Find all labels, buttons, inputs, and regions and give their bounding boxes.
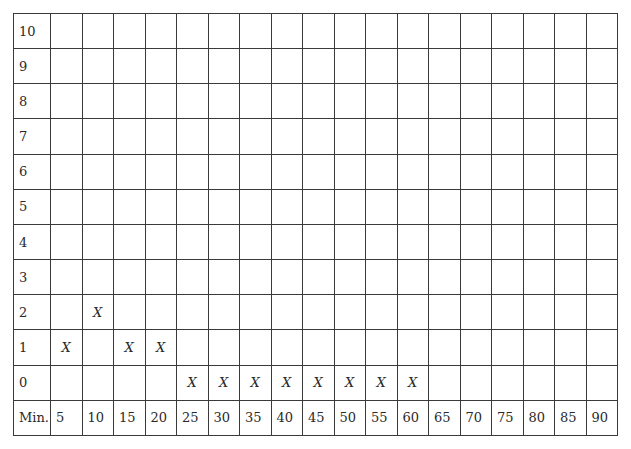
grid-cell	[82, 260, 114, 295]
grid-cell	[240, 330, 272, 365]
grid-cell	[460, 154, 492, 189]
grid-cell	[429, 330, 461, 365]
grid-cell	[114, 260, 146, 295]
grid-row-7: 7	[14, 119, 618, 154]
x-tick-label: 20	[145, 400, 177, 435]
grid-cell	[523, 84, 555, 119]
y-tick-label: 6	[14, 154, 51, 189]
grid-cell	[145, 260, 177, 295]
grid-cell	[492, 49, 524, 84]
grid-cell	[586, 49, 618, 84]
x-tick-label: 25	[177, 400, 209, 435]
grid-cell	[492, 84, 524, 119]
x-tick-label: 50	[334, 400, 366, 435]
data-mark: X	[114, 330, 146, 365]
grid-cell	[303, 119, 335, 154]
grid-cell	[555, 365, 587, 400]
grid-cell	[240, 295, 272, 330]
grid-cell	[555, 260, 587, 295]
grid-cell	[586, 119, 618, 154]
grid-cell	[145, 189, 177, 224]
grid-cell	[523, 154, 555, 189]
grid-cell	[555, 154, 587, 189]
data-mark: X	[366, 365, 398, 400]
grid-cell	[240, 260, 272, 295]
grid-cell	[523, 189, 555, 224]
x-tick-label: 85	[555, 400, 587, 435]
grid-cell	[429, 154, 461, 189]
grid-cell	[523, 260, 555, 295]
grid-cell	[82, 365, 114, 400]
grid-cell	[334, 49, 366, 84]
grid-cell	[177, 84, 209, 119]
grid-cell	[586, 154, 618, 189]
grid-cell	[460, 260, 492, 295]
grid-cell	[240, 84, 272, 119]
grid-cell	[82, 119, 114, 154]
grid-cell	[397, 189, 429, 224]
grid-cell	[586, 14, 618, 49]
grid-cell	[429, 14, 461, 49]
grid-cell	[303, 49, 335, 84]
grid-cell	[523, 119, 555, 154]
y-tick-label: 0	[14, 365, 51, 400]
grid-cell	[208, 14, 240, 49]
grid-cell	[586, 295, 618, 330]
grid-cell	[177, 154, 209, 189]
grid-cell	[271, 330, 303, 365]
grid-cell	[271, 14, 303, 49]
y-tick-label: 2	[14, 295, 51, 330]
grid-row-2: 2X	[14, 295, 618, 330]
grid-cell	[555, 330, 587, 365]
x-tick-label: 60	[397, 400, 429, 435]
grid-cell	[523, 224, 555, 259]
y-tick-label: 10	[14, 14, 51, 49]
grid-cell	[460, 119, 492, 154]
grid-cell	[397, 49, 429, 84]
x-tick-label: 15	[114, 400, 146, 435]
grid-cell	[429, 224, 461, 259]
grid-cell	[523, 330, 555, 365]
grid-cell	[303, 330, 335, 365]
grid-cell	[51, 260, 83, 295]
grid-cell	[397, 295, 429, 330]
grid-cell	[145, 224, 177, 259]
grid-cell	[271, 295, 303, 330]
y-tick-label: 5	[14, 189, 51, 224]
grid-cell	[240, 49, 272, 84]
data-mark: X	[51, 330, 83, 365]
grid-cell	[366, 84, 398, 119]
grid-cell	[208, 154, 240, 189]
grid-cell	[177, 189, 209, 224]
x-axis-label: Min.	[14, 400, 51, 435]
grid-cell	[303, 224, 335, 259]
data-mark: X	[397, 365, 429, 400]
grid-cell	[523, 49, 555, 84]
grid-cell	[460, 295, 492, 330]
grid-row-5: 5	[14, 189, 618, 224]
grid-cell	[492, 14, 524, 49]
grid-cell	[366, 189, 398, 224]
grid-cell	[523, 365, 555, 400]
x-tick-label: 70	[460, 400, 492, 435]
grid-cell	[82, 154, 114, 189]
grid-cell	[366, 260, 398, 295]
grid-cell	[397, 154, 429, 189]
x-tick-label: 45	[303, 400, 335, 435]
data-mark: X	[334, 365, 366, 400]
grid-cell	[240, 154, 272, 189]
grid-cell	[334, 260, 366, 295]
grid-cell	[366, 119, 398, 154]
grid-cell	[366, 224, 398, 259]
grid-cell	[145, 14, 177, 49]
data-mark: X	[240, 365, 272, 400]
grid-cell	[555, 84, 587, 119]
x-tick-label: 10	[82, 400, 114, 435]
grid-cell	[208, 224, 240, 259]
grid-cell	[366, 49, 398, 84]
grid-cell	[82, 224, 114, 259]
grid-cell	[366, 154, 398, 189]
grid-cell	[303, 295, 335, 330]
grid-cell	[303, 260, 335, 295]
x-tick-label: 35	[240, 400, 272, 435]
